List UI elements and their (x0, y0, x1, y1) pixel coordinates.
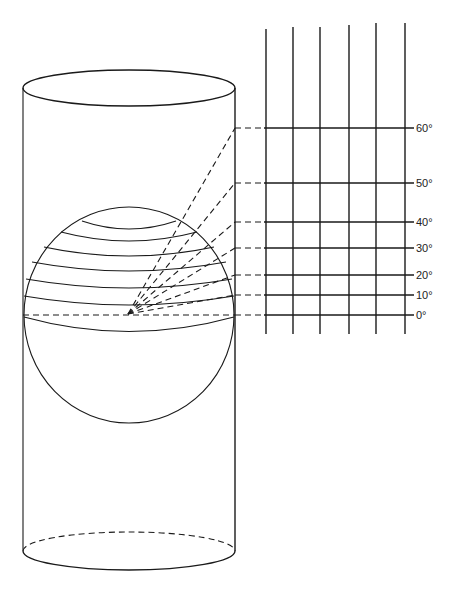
parallel-20 (26, 279, 232, 288)
cylindrical-projection-diagram: 60°50°40°30°20°10°0° (0, 0, 454, 598)
latitude-label-20: 20° (416, 269, 433, 281)
parallel-40 (44, 247, 214, 256)
parallel-30 (32, 262, 226, 271)
projected-grid (235, 23, 414, 334)
cylinder-bottom-front (23, 551, 235, 570)
latitude-label-10: 10° (416, 289, 433, 301)
cylinder-bottom-back-dashed (23, 532, 235, 551)
latitude-label-30: 30° (416, 242, 433, 254)
sphere (23, 207, 235, 423)
latitude-label-60: 60° (416, 122, 433, 134)
sphere-lower-rim (24, 317, 234, 332)
latitude-label-0: 0° (416, 309, 427, 321)
parallel-60 (82, 221, 176, 229)
cylinder (23, 70, 235, 570)
cylinder-top-ellipse (23, 70, 235, 106)
latitude-label-40: 40° (416, 216, 433, 228)
parallel-50 (61, 232, 197, 241)
sphere-parallels (24, 221, 234, 305)
projection-ray-50 (128, 183, 235, 314)
latitude-label-50: 50° (416, 177, 433, 189)
latitude-labels: 60°50°40°30°20°10°0° (416, 122, 433, 321)
